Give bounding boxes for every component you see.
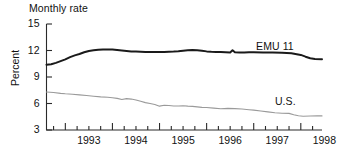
- series-line-u-s: [47, 92, 323, 116]
- series-line-emu-11: [47, 49, 323, 64]
- axis-spines: [47, 24, 323, 130]
